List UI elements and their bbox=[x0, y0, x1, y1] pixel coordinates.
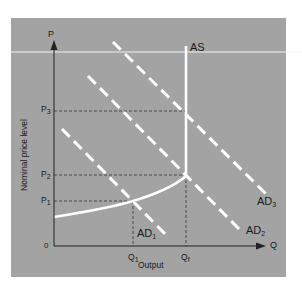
ad1-label: AD1 bbox=[137, 227, 156, 240]
ad3-curve bbox=[113, 42, 266, 194]
y-axis-arrow-icon bbox=[51, 40, 58, 50]
q1-label: Q1 bbox=[128, 252, 139, 263]
p2-label: P2 bbox=[41, 169, 51, 180]
as-curve bbox=[54, 46, 186, 217]
ad1-curve bbox=[62, 129, 169, 238]
p1-label: P1 bbox=[41, 195, 51, 206]
y-axis-label: Nominal price level bbox=[19, 95, 29, 215]
x-axis-label: Output bbox=[138, 260, 164, 270]
ad-curves bbox=[62, 42, 266, 238]
as-label: AS bbox=[190, 41, 205, 53]
x-axis-symbol: Q bbox=[270, 240, 277, 250]
p3-label: P3 bbox=[41, 104, 51, 115]
ad3-label: AD3 bbox=[257, 195, 276, 208]
qf-label: Qf bbox=[181, 252, 190, 263]
x-axis-arrow-icon bbox=[256, 243, 266, 250]
y-axis-symbol: P bbox=[48, 29, 54, 39]
origin-label: 0 bbox=[44, 241, 48, 250]
ad2-label: AD2 bbox=[246, 224, 265, 237]
ad2-curve bbox=[88, 76, 243, 233]
guide-lines bbox=[54, 111, 186, 246]
